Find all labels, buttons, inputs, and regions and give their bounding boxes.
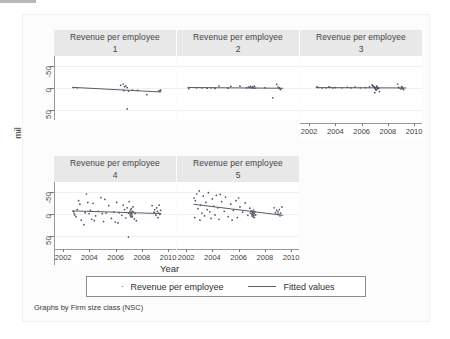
x-tick bbox=[388, 123, 389, 126]
data-point bbox=[101, 213, 103, 215]
y-axis-title: mil bbox=[13, 127, 23, 139]
scatter-layer-5 bbox=[177, 182, 299, 246]
data-point bbox=[255, 214, 257, 216]
x-tick-label: 2006 bbox=[107, 253, 124, 262]
data-point bbox=[247, 214, 249, 216]
data-point bbox=[155, 214, 157, 216]
data-point bbox=[212, 198, 214, 200]
data-point bbox=[250, 86, 252, 88]
data-point bbox=[86, 193, 88, 195]
data-point bbox=[87, 202, 89, 204]
data-point bbox=[209, 211, 211, 213]
x-tick bbox=[414, 123, 415, 126]
data-point bbox=[205, 202, 207, 204]
x-tick bbox=[142, 249, 143, 252]
panel-title-text: Revenue per employee bbox=[54, 31, 176, 43]
x-tick bbox=[239, 249, 240, 252]
x-tick bbox=[186, 249, 187, 252]
x-tick bbox=[265, 249, 266, 252]
panel-group-5: Revenue per employee52002200420062008201… bbox=[177, 156, 299, 265]
data-point bbox=[156, 207, 158, 209]
x-tick-label: 2010 bbox=[283, 253, 300, 262]
data-point bbox=[95, 215, 97, 217]
y-axis-1: 500-50 bbox=[32, 56, 54, 120]
data-point bbox=[206, 209, 208, 211]
data-point bbox=[374, 92, 376, 94]
x-tick-label: 2002 bbox=[178, 253, 195, 262]
stata-graph-figure: Revenue per employee1500-50Revenue per e… bbox=[0, 0, 450, 339]
data-point bbox=[132, 216, 134, 218]
data-point bbox=[244, 202, 246, 204]
data-point bbox=[100, 197, 102, 199]
x-axis-title: Year bbox=[160, 263, 179, 274]
data-point bbox=[80, 219, 82, 221]
panel-group-4: Revenue per employee4500-502002200420062… bbox=[54, 156, 176, 265]
data-point bbox=[198, 190, 200, 192]
x-axis-5: 20022004200620082010 bbox=[177, 249, 299, 265]
x-tick-label: 2002 bbox=[55, 253, 72, 262]
data-point bbox=[122, 204, 124, 206]
legend-label-fit: Fitted values bbox=[284, 282, 335, 292]
x-tick-label: 2004 bbox=[327, 127, 344, 136]
panel-group-3: Revenue per employee32002200420062008201… bbox=[300, 30, 422, 139]
data-point bbox=[375, 89, 377, 91]
data-point bbox=[125, 85, 127, 87]
data-point bbox=[128, 201, 130, 203]
x-tick-label: 2004 bbox=[204, 253, 221, 262]
data-point bbox=[253, 209, 255, 211]
data-point bbox=[158, 204, 160, 206]
data-point bbox=[242, 211, 244, 213]
data-point bbox=[397, 83, 399, 85]
data-point bbox=[84, 212, 86, 214]
panel-title-4: Revenue per employee4 bbox=[54, 156, 176, 182]
data-point bbox=[201, 212, 203, 214]
plot-area-1 bbox=[54, 56, 176, 120]
y-tick-label: -50 bbox=[45, 192, 53, 204]
y-axis-4: 500-50 bbox=[32, 182, 54, 265]
x-tick bbox=[309, 123, 310, 126]
panel-title-5: Revenue per employee5 bbox=[177, 156, 299, 182]
x-tick-label: 2008 bbox=[380, 127, 397, 136]
data-point bbox=[83, 224, 85, 226]
data-point bbox=[204, 215, 206, 217]
data-point bbox=[273, 207, 275, 209]
data-point bbox=[218, 85, 220, 87]
data-point bbox=[253, 214, 255, 216]
y-tick-label: 0 bbox=[45, 88, 53, 92]
data-point bbox=[128, 236, 130, 238]
y-tick-label: 50 bbox=[45, 110, 53, 119]
data-point bbox=[124, 209, 126, 211]
data-point bbox=[131, 214, 133, 216]
data-point bbox=[197, 208, 199, 210]
legend-entry-scatter: · Revenue per employee bbox=[117, 282, 223, 292]
data-point bbox=[134, 218, 136, 220]
data-point bbox=[218, 218, 220, 220]
panel-title-text: Revenue per employee bbox=[54, 157, 176, 169]
data-point bbox=[238, 197, 240, 199]
data-point bbox=[78, 200, 80, 202]
data-point bbox=[131, 208, 133, 210]
scatter-layer-2 bbox=[177, 56, 299, 120]
panel-group-1: Revenue per employee1500-50 bbox=[54, 30, 176, 120]
x-tick bbox=[362, 123, 363, 126]
x-tick bbox=[168, 249, 169, 252]
data-point bbox=[277, 211, 279, 213]
data-point bbox=[88, 213, 90, 215]
window-top-accent bbox=[0, 0, 36, 3]
x-tick bbox=[116, 249, 117, 252]
x-tick bbox=[291, 249, 292, 252]
data-point bbox=[94, 220, 96, 222]
data-point bbox=[193, 197, 195, 199]
data-point bbox=[276, 84, 278, 86]
x-tick-label: 2002 bbox=[301, 127, 318, 136]
data-point bbox=[235, 200, 237, 202]
data-point bbox=[188, 88, 190, 90]
data-point bbox=[403, 89, 405, 91]
data-point bbox=[231, 219, 233, 221]
data-point bbox=[126, 87, 128, 89]
panel-group-label: 4 bbox=[54, 169, 176, 181]
data-point bbox=[281, 206, 283, 208]
panel-title-text: Revenue per employee bbox=[177, 157, 299, 169]
y-tick-label: 50 bbox=[45, 236, 53, 245]
x-axis-3: 20022004200620082010 bbox=[300, 123, 422, 139]
